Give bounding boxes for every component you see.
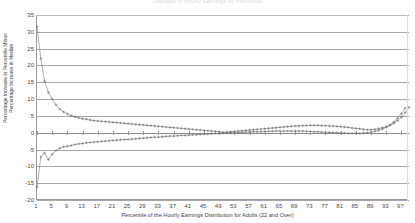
x-tick-33: 33 [154, 203, 161, 209]
x-tick-85: 85 [352, 203, 359, 209]
data-point-marker [47, 91, 50, 94]
x-tick-1: 1 [34, 203, 37, 209]
data-point-marker [161, 125, 164, 128]
data-point-marker [150, 124, 153, 127]
data-point-marker [320, 124, 323, 127]
data-point-marker [36, 25, 39, 28]
data-point-marker [263, 127, 266, 130]
data-point-marker [127, 122, 130, 125]
data-point-marker [115, 139, 118, 142]
data-point-marker [279, 130, 282, 133]
data-point-marker [256, 128, 259, 131]
data-point-marker [115, 121, 118, 124]
data-point-marker [290, 130, 293, 133]
data-point-marker [138, 137, 141, 140]
data-point-marker [96, 140, 99, 143]
data-point-marker [66, 113, 69, 116]
data-point-marker [169, 126, 172, 129]
data-point-marker [176, 127, 179, 130]
data-point-marker [199, 133, 202, 136]
x-tick-53: 53 [230, 203, 237, 209]
data-point-marker [324, 124, 327, 127]
data-point-marker [77, 142, 80, 145]
data-point-marker [373, 130, 376, 133]
data-point-marker [66, 145, 69, 148]
data-point-marker [313, 124, 316, 127]
data-point-marker [248, 131, 251, 134]
data-point-marker [81, 142, 84, 145]
data-point-marker [370, 128, 373, 131]
data-point-marker [146, 124, 149, 127]
data-point-marker [134, 123, 137, 126]
data-point-marker [305, 130, 308, 133]
data-point-marker [70, 144, 73, 147]
data-point-marker [263, 130, 266, 133]
x-tick-45: 45 [200, 203, 207, 209]
series-line [37, 108, 405, 187]
data-point-marker [191, 128, 194, 131]
data-point-marker [70, 114, 73, 117]
y-tick--20: -20 [2, 197, 34, 203]
data-point-marker [89, 141, 92, 144]
data-point-marker [180, 127, 183, 130]
data-point-marker [309, 130, 312, 133]
data-point-marker [165, 135, 168, 138]
data-point-marker [187, 128, 190, 131]
y-axis-title-line-2: Percentage Increase in Median [8, 2, 14, 154]
data-point-marker [36, 186, 39, 189]
data-point-marker [218, 132, 221, 135]
data-point-marker [150, 136, 153, 139]
data-point-marker [237, 131, 240, 134]
data-point-marker [275, 130, 278, 133]
data-point-marker [161, 135, 164, 138]
data-point-marker [313, 130, 316, 133]
data-point-marker [358, 127, 361, 130]
data-point-marker [58, 147, 61, 150]
data-point-marker [39, 57, 42, 60]
data-point-marker [93, 141, 96, 144]
x-tick-25: 25 [124, 203, 131, 209]
data-point-marker [172, 135, 175, 138]
x-tick-9: 9 [65, 203, 68, 209]
data-point-marker [271, 130, 274, 133]
x-tick-61: 61 [260, 203, 267, 209]
data-point-marker [214, 132, 217, 135]
data-point-marker [347, 126, 350, 129]
y-tick--15: -15 [2, 180, 34, 186]
x-tick-49: 49 [215, 203, 222, 209]
data-point-marker [351, 127, 354, 130]
x-tick-93: 93 [382, 203, 389, 209]
data-point-marker [328, 131, 331, 134]
data-point-marker [187, 134, 190, 137]
x-tick-69: 69 [291, 203, 298, 209]
x-tick-73: 73 [306, 203, 313, 209]
data-point-marker [180, 134, 183, 137]
data-point-marker [358, 132, 361, 135]
data-point-marker [85, 118, 88, 121]
data-point-marker [191, 133, 194, 136]
x-tick-21: 21 [109, 203, 116, 209]
data-point-marker [339, 132, 342, 135]
data-point-marker [282, 126, 285, 129]
data-point-marker [233, 131, 236, 134]
x-tick-17: 17 [93, 203, 100, 209]
x-tick-13: 13 [78, 203, 85, 209]
data-point-marker [366, 128, 369, 131]
data-point-marker [77, 117, 80, 120]
x-tick-81: 81 [336, 203, 343, 209]
series-line [37, 27, 409, 133]
data-point-marker [244, 131, 247, 134]
x-axis-title: Percentile of the Hourly Earnings Distri… [0, 212, 415, 218]
data-point-marker [81, 117, 84, 120]
data-point-marker [301, 130, 304, 133]
data-point-marker [112, 121, 115, 124]
data-point-marker [252, 130, 255, 133]
data-point-marker [343, 132, 346, 135]
data-point-marker [119, 122, 122, 125]
data-point-marker [339, 125, 342, 128]
chart-title: Changes in Hourly Earnings by Percentile [0, 0, 415, 4]
data-point-marker [172, 126, 175, 129]
data-point-marker [317, 124, 320, 127]
data-point-marker [294, 125, 297, 128]
data-point-marker [260, 130, 263, 133]
